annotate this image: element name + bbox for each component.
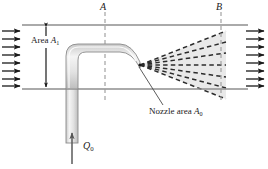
inlet-arrow-group [2,31,20,86]
nozzle-tip [138,63,141,66]
inlet-area-subscript: 1 [56,40,59,46]
section-a-label: A [100,2,106,12]
nozzle-area-text: Nozzle area [149,106,192,116]
section-b-label: B [216,2,222,12]
inlet-area-text: Area [31,35,49,45]
elbow-pipe [66,44,140,143]
nozzle-area-subscript: 0 [199,111,202,117]
outlet-arrow-group [246,31,264,86]
flow-subscript: 0 [90,145,93,152]
nozzle-area-label: Nozzle area A0 [149,107,203,117]
inlet-area-label: Area A1 [31,36,59,46]
supply-flow-label: Q0 [83,141,94,152]
diagram-canvas [0,0,268,169]
nozzle-label-leader-line [139,67,163,105]
nozzle-control-volume-figure: A B Area A1 Nozzle area A0 Q0 [0,0,268,169]
